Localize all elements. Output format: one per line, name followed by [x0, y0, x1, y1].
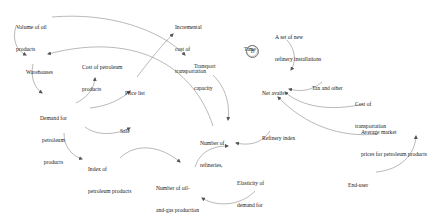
- node-tax-and-other: Tax and other: [312, 71, 343, 107]
- node-index-petroleum-products: Index of petroleum products: [88, 152, 131, 210]
- link-pricelist-to-incremental: [137, 34, 173, 77]
- node-sale: Sale: [120, 114, 130, 150]
- node-average-market-prices: Average market prices for petroleum prod…: [361, 115, 427, 173]
- node-net-avails: Net avails: [262, 76, 285, 112]
- causal-loop-diagram: Volume of oil products Warehouses Cost o…: [0, 0, 445, 218]
- node-demand-petroleum-products: Demand for petroleum products: [40, 101, 67, 180]
- node-warehouses: Warehouses: [26, 55, 53, 91]
- node-number-of-refineries: Number of refineries,: [200, 126, 224, 184]
- node-price-list: Price list: [125, 76, 145, 112]
- time-loop-label: B: [246, 45, 259, 58]
- node-number-oil-gas-equipment: Number of oil- and-gas production equipm…: [156, 171, 199, 218]
- node-refinery-index: Refinery index: [262, 121, 295, 157]
- node-end-user: End-user: [348, 168, 368, 204]
- node-cost-petroleum-products: Cost of petroleum products: [82, 50, 122, 108]
- node-elasticity-demand: Elasticity of demand for petroleum produ…: [237, 166, 280, 218]
- node-new-refinery-installations: A set of new refinery installations: [275, 20, 321, 78]
- node-transport-capacity: Transport capacity: [194, 49, 216, 107]
